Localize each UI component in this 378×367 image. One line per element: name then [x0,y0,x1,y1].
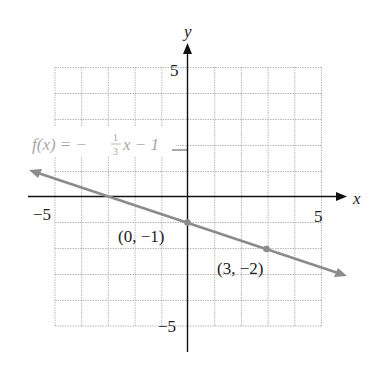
x-max-label: 5 [314,207,323,226]
x-min-label: −5 [33,205,51,224]
point1-label: (0, −1) [118,227,164,246]
axes [28,43,347,352]
x-axis-label: x [352,189,361,208]
point2-label: (3, −2) [217,259,263,278]
function-label-denominator: 3 [113,146,118,157]
y-axis-label: y [182,22,192,41]
point-0-neg1 [184,219,191,226]
y-min-label: −5 [158,317,176,336]
function-graph: y x −5 5 5 −5 (0, −1) (3, −2) f(x) = − 1… [0,0,378,367]
y-max-label: 5 [170,61,179,80]
point-3-neg2 [263,246,270,253]
function-label-rhs: x − 1 [122,135,159,154]
x-axis-arrow-icon [336,192,347,201]
y-axis-arrow-icon [183,43,192,54]
function-label-numerator: 1 [113,132,118,143]
function-label-lhs: f(x) = − [32,135,87,154]
